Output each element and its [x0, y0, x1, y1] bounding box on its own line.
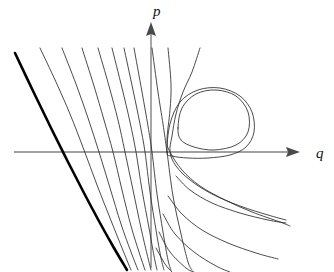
orbit-curve-left-orbit-4 [98, 48, 151, 270]
orbit-curve-separatrix-loop-outer [170, 48, 286, 220]
phase-portrait-canvas: q p [0, 0, 334, 272]
orbit-curve-left-orbit-1 [40, 48, 131, 270]
orbit-curve-homoclinic-loop [167, 88, 255, 159]
orbit-curve-separatrix-bold [15, 53, 127, 270]
orbit-curve-right-orbit-3 [163, 214, 230, 272]
orbit-curve-left-orbit-6 [124, 48, 164, 270]
p-axis-label: p [152, 3, 161, 19]
orbit-curve-closed-periodic-orbit [178, 90, 250, 150]
orbit-curve-left-orbit-3 [82, 48, 145, 270]
q-axis-arrowhead [286, 147, 300, 157]
axes-group [14, 22, 300, 268]
orbit-curve-left-orbit-7 [134, 48, 171, 270]
orbit-curves-group [15, 48, 290, 272]
p-axis-arrowhead [146, 22, 156, 36]
orbit-curve-separatrix-loop-upper [167, 48, 290, 226]
orbit-curve-right-orbit-1 [176, 176, 286, 223]
phase-portrait-figure: q p [0, 0, 334, 272]
q-axis-label: q [316, 145, 324, 161]
